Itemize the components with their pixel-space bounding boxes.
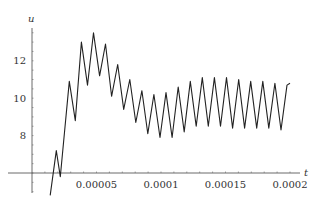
axes xyxy=(8,28,300,193)
x-axis-label: t xyxy=(304,167,309,178)
line-chart: 0.000050.00010.000150.0002 81012 t u xyxy=(0,0,319,203)
x-tick-labels: 0.000050.00010.000150.0002 xyxy=(76,179,308,190)
x-tick-label: 0.00015 xyxy=(205,179,246,190)
y-axis-label: u xyxy=(28,13,34,24)
y-tick-label: 12 xyxy=(13,55,26,66)
y-tick-labels: 81012 xyxy=(13,55,26,141)
data-line xyxy=(50,33,290,196)
x-tick-label: 0.0001 xyxy=(144,179,179,190)
x-tick-label: 0.00005 xyxy=(76,179,117,190)
y-tick-label: 8 xyxy=(20,130,26,141)
y-tick-label: 10 xyxy=(13,93,26,104)
x-tick-label: 0.0002 xyxy=(273,179,308,190)
